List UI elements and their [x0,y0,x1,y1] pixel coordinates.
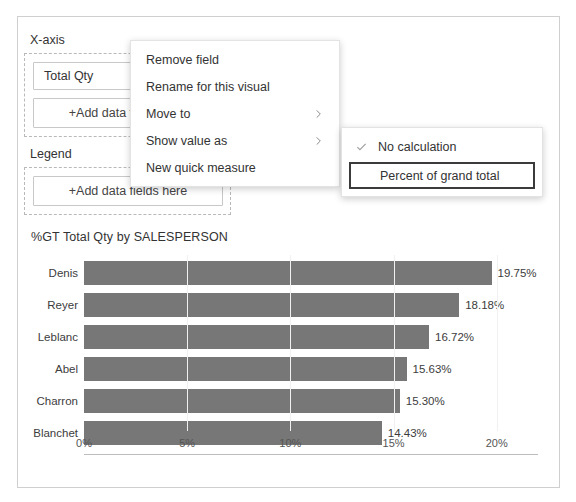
legend-well-label: Legend [30,147,72,161]
bar[interactable] [84,325,429,349]
x-axis-tick-label: 10% [279,437,301,449]
gridline [394,255,395,431]
gridline [497,255,498,431]
category-label: Denis [18,257,78,289]
bar[interactable] [84,261,492,285]
bar-value-label: 16.72% [429,321,474,353]
x-axis-tick-label: 15% [383,437,405,449]
xaxis-well-label: X-axis [30,33,65,47]
field-context-menu[interactable]: Remove field Rename for this visual Move… [130,40,340,187]
field-pill-label: Total Qty [44,69,93,83]
x-axis-tick-label: 5% [179,437,195,449]
check-icon [356,142,367,153]
category-label: Blanchet [18,417,78,449]
submenu-item-no-calculation[interactable]: No calculation [342,134,542,160]
submenu-item-percent-of-grand-total[interactable]: Percent of grand total [349,162,535,189]
bar[interactable] [84,421,382,445]
category-label: Abel [18,353,78,385]
menu-item-move-to[interactable]: Move to [131,100,339,127]
x-axis-line [84,454,538,455]
gridline [290,255,291,431]
bar-value-label: 15.63% [407,353,452,385]
menu-item-rename-for-this-visual[interactable]: Rename for this visual [131,73,339,100]
chevron-right-icon [314,136,323,145]
show-value-as-submenu[interactable]: No calculation Percent of grand total [341,127,543,197]
chart-title: %GT Total Qty by SALESPERSON [31,230,228,244]
bar[interactable] [84,389,400,413]
menu-item-label: Move to [146,107,190,121]
bar[interactable] [84,357,407,381]
category-label: Charron [18,385,78,417]
submenu-item-label: No calculation [378,140,457,154]
gridline [187,255,188,431]
menu-item-label: New quick measure [146,161,256,175]
menu-item-show-value-as[interactable]: Show value as [131,127,339,154]
menu-item-label: Remove field [146,53,219,67]
category-label: Reyer [18,289,78,321]
x-axis-tick-label: 20% [486,437,508,449]
x-axis-tick-label: 0% [76,437,92,449]
menu-item-new-quick-measure[interactable]: New quick measure [131,154,339,181]
bar[interactable] [84,293,459,317]
chevron-right-icon [314,109,323,118]
chart-plot-area: Denis19.75%Reyer18.18%Leblanc16.72%Abel1… [18,255,561,489]
menu-item-remove-field[interactable]: Remove field [131,46,339,73]
bar-value-label: 19.75% [492,257,537,289]
submenu-item-label: Percent of grand total [380,169,500,183]
chart-visual: %GT Total Qty by SALESPERSON Denis19.75%… [18,217,561,489]
menu-item-label: Rename for this visual [146,80,270,94]
bar-value-label: 15.30% [400,385,445,417]
menu-item-label: Show value as [146,134,227,148]
category-label: Leblanc [18,321,78,353]
